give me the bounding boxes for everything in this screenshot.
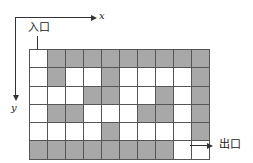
maze-path-cell	[120, 123, 137, 140]
maze-wall-cell	[192, 123, 209, 140]
maze-path-cell	[156, 68, 173, 85]
maze-path-cell	[138, 123, 155, 140]
y-axis-arrow-icon	[13, 95, 19, 101]
maze-wall-cell	[84, 141, 101, 158]
maze-wall-cell	[174, 50, 191, 67]
maze-path-cell	[174, 123, 191, 140]
maze-wall-cell	[138, 50, 155, 67]
maze-path-cell	[30, 50, 47, 67]
maze-wall-cell	[156, 141, 173, 158]
maze-wall-cell	[192, 50, 209, 67]
maze-wall-cell	[102, 141, 119, 158]
maze-wall-cell	[156, 87, 173, 104]
y-axis-line	[15, 17, 16, 97]
maze-path-cell	[138, 68, 155, 85]
x-axis-label: x	[99, 11, 105, 21]
maze-path-cell	[156, 123, 173, 140]
maze-path-cell	[120, 68, 137, 85]
maze-path-cell	[48, 123, 65, 140]
maze-wall-cell	[102, 123, 119, 140]
maze-path-cell	[84, 105, 101, 122]
x-axis-line	[15, 17, 93, 18]
maze-path-cell	[120, 87, 137, 104]
maze-path-cell	[102, 105, 119, 122]
maze-path-cell	[66, 68, 83, 85]
exit-arrow-icon	[207, 143, 213, 149]
maze-wall-cell	[66, 105, 83, 122]
maze-path-cell	[66, 123, 83, 140]
maze-wall-cell	[48, 105, 65, 122]
y-axis-label: y	[11, 103, 17, 113]
maze-wall-cell	[102, 87, 119, 104]
maze-wall-cell	[138, 105, 155, 122]
maze-wall-cell	[84, 50, 101, 67]
exit-arrow-line	[190, 145, 208, 146]
maze-wall-cell	[66, 50, 83, 67]
maze-wall-cell	[102, 68, 119, 85]
maze-wall-cell	[48, 50, 65, 67]
maze-path-cell	[30, 123, 47, 140]
maze-path-cell	[174, 68, 191, 85]
maze-path-cell	[174, 141, 191, 158]
maze-wall-cell	[120, 50, 137, 67]
maze-grid	[29, 49, 210, 160]
maze-wall-cell	[30, 141, 47, 158]
maze-path-cell	[30, 87, 47, 104]
maze-path-cell	[48, 87, 65, 104]
exit-label: 出口	[219, 139, 241, 150]
maze-wall-cell	[102, 50, 119, 67]
maze-wall-cell	[192, 105, 209, 122]
maze-path-cell	[120, 105, 137, 122]
maze-path-cell	[84, 68, 101, 85]
maze-path-cell	[66, 87, 83, 104]
maze-path-cell	[84, 123, 101, 140]
maze-path-cell	[30, 68, 47, 85]
maze-wall-cell	[156, 105, 173, 122]
maze-wall-cell	[48, 141, 65, 158]
x-axis-arrow-icon	[91, 15, 97, 21]
maze-path-cell	[30, 105, 47, 122]
maze-path-cell	[138, 87, 155, 104]
maze-wall-cell	[84, 87, 101, 104]
maze-wall-cell	[156, 50, 173, 67]
entrance-label: 入口	[28, 22, 50, 33]
maze-wall-cell	[48, 68, 65, 85]
maze-wall-cell	[120, 141, 137, 158]
maze-path-cell	[174, 105, 191, 122]
maze-wall-cell	[138, 141, 155, 158]
maze-wall-cell	[66, 141, 83, 158]
maze-wall-cell	[192, 68, 209, 85]
maze-wall-cell	[192, 87, 209, 104]
maze-path-cell	[174, 87, 191, 104]
